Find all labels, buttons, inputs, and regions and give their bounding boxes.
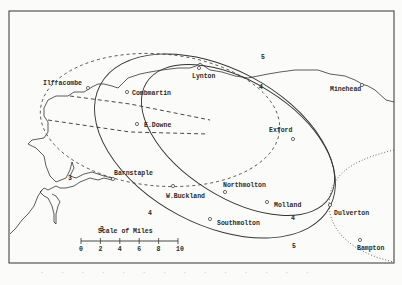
town-label: Lynton <box>192 73 216 80</box>
town-marker <box>358 238 361 241</box>
scale-tick-label: 10 <box>176 246 184 253</box>
town-label: Dulverton <box>334 210 369 217</box>
scale-tick-label: 4 <box>118 246 122 253</box>
dashed-boundary <box>35 44 286 196</box>
town-marker <box>125 90 128 93</box>
coastline <box>28 63 394 182</box>
town-marker <box>291 137 294 140</box>
contour-label: 5 <box>292 243 296 250</box>
town-marker <box>171 184 174 187</box>
contour-label: 5 <box>261 54 265 61</box>
contour-label: 4 <box>259 84 263 91</box>
town-label: Northmolton <box>223 182 266 189</box>
isoseismal-4 <box>116 34 361 247</box>
dashed-line-2 <box>48 120 208 134</box>
town-label: Molland <box>274 202 301 209</box>
coast-south <box>10 190 42 234</box>
scale-tick-label: 2 <box>98 246 102 253</box>
scale-title: Scale of Miles <box>98 228 153 235</box>
estuary <box>40 178 112 224</box>
isoseismal-3 <box>64 16 367 276</box>
contour-label: 4 <box>291 215 295 222</box>
town-label: Minehead <box>330 86 361 93</box>
town-marker <box>328 203 331 206</box>
town-label: E.Downe <box>144 122 171 129</box>
town-marker <box>135 122 138 125</box>
scale-tick-label: 0 <box>79 246 83 253</box>
town-marker <box>197 66 200 69</box>
contour-label: 3 <box>68 175 72 182</box>
town-marker <box>86 86 89 89</box>
figure-caption: · · · · · · · · · · · · · · <box>40 269 370 277</box>
scale-tick-label: 8 <box>157 246 161 253</box>
town-marker <box>208 217 211 220</box>
town-marker <box>265 200 268 203</box>
town-label: Bampton <box>357 245 384 252</box>
dashed-line-1 <box>70 96 210 120</box>
town-marker <box>111 177 114 180</box>
town-label: Ilfracombe <box>43 80 82 87</box>
town-label: W.Buckland <box>166 193 205 200</box>
town-label: Southmolton <box>217 220 260 227</box>
scale-tick-label: 6 <box>137 246 141 253</box>
town-label: Exford <box>269 127 293 134</box>
town-label: Combmartin <box>132 90 171 97</box>
town-marker <box>223 190 226 193</box>
town-label: Barnstaple <box>114 170 153 177</box>
map-figure: IlfracombeCombmartinLyntonMineheadE.Down… <box>0 0 402 285</box>
contour-label: 4 <box>148 210 152 217</box>
